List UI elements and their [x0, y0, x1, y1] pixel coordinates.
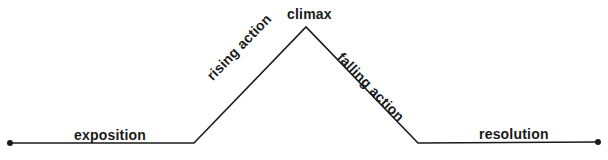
start-dot-icon: [7, 140, 13, 146]
stage-label-resolution: resolution: [479, 127, 549, 141]
end-dot-icon: [595, 139, 601, 145]
stage-label-exposition: exposition: [74, 128, 146, 142]
plot-diagram: exposition rising action climax falling …: [0, 0, 608, 160]
stage-label-climax: climax: [287, 7, 332, 21]
